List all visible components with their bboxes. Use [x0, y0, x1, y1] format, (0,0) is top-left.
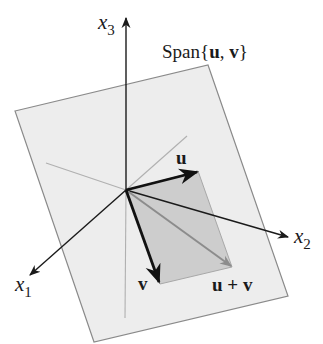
x1-axis-label: x1 — [14, 272, 32, 300]
x2-axis-label: x2 — [293, 224, 311, 252]
v-label: v — [138, 273, 148, 294]
span-label: Span{u, v} — [162, 41, 248, 62]
span-uv-diagram: Span{u, v} x3 x1 x2 u v u + v — [0, 0, 323, 344]
x3-axis-label: x3 — [97, 10, 115, 38]
u-plus-v-label: u + v — [212, 274, 253, 295]
u-label: u — [176, 147, 187, 168]
